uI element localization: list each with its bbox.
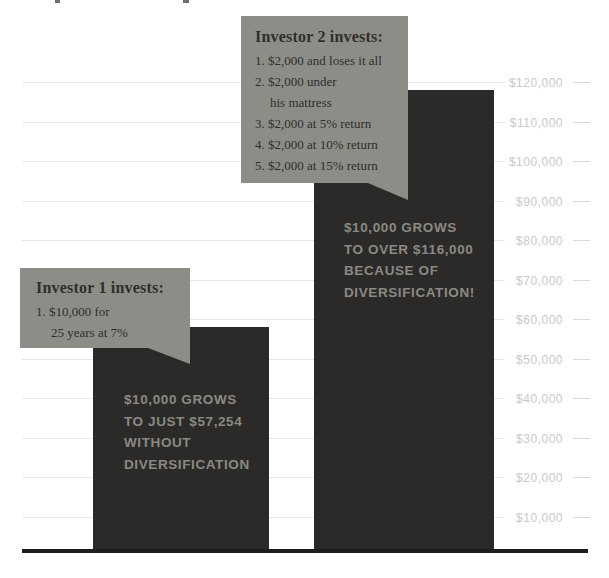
list-item: 2. $2,000 under his mattress xyxy=(255,71,406,113)
y-tick-label: $60,000 xyxy=(516,313,563,327)
list-item: 3. $2,000 at 5% return xyxy=(255,113,406,134)
y-tick-label: $10,000 xyxy=(516,511,563,525)
tick-dash xyxy=(573,240,590,241)
x-axis-line xyxy=(22,549,588,553)
callout-investor1-list: 1. $10,000 for 25 years at 7% xyxy=(36,301,186,343)
tick-dash xyxy=(573,398,590,399)
tick-dash xyxy=(573,122,590,123)
cropped-text-artifact xyxy=(55,0,60,3)
tick-dash xyxy=(573,280,590,281)
y-tick-label: $70,000 xyxy=(516,274,563,288)
list-item: 1. $2,000 and loses it all xyxy=(255,50,406,71)
tick-dash xyxy=(573,359,590,360)
list-item: 1. $10,000 for 25 years at 7% xyxy=(36,301,186,343)
callout-investor2-title: Investor 2 invests: xyxy=(255,28,406,46)
callout-investor2: Investor 2 invests: 1. $2,000 and loses … xyxy=(241,16,408,200)
y-tick-label: $90,000 xyxy=(516,195,563,209)
callout-investor1-title: Investor 1 invests: xyxy=(36,279,186,297)
tick-dash xyxy=(573,201,590,202)
tick-dash xyxy=(573,438,590,439)
diversification-bar-chart: $120,000$110,000$100,000$90,000$80,000$7… xyxy=(0,0,609,578)
y-tick-label: $80,000 xyxy=(516,234,563,248)
list-item: 5. $2,000 at 15% return xyxy=(255,155,406,176)
tick-dash xyxy=(573,82,590,83)
y-tick-label: $100,000 xyxy=(509,155,563,169)
y-tick-label: $110,000 xyxy=(510,116,563,130)
cropped-text-artifact xyxy=(183,0,189,3)
callout-investor2-list: 1. $2,000 and loses it all 2. $2,000 und… xyxy=(255,50,406,176)
y-tick-label: $120,000 xyxy=(509,76,563,90)
tick-dash xyxy=(573,319,590,320)
tick-dash xyxy=(573,517,590,518)
y-tick-label: $30,000 xyxy=(516,432,563,446)
tick-dash xyxy=(573,161,590,162)
list-item: 4. $2,000 at 10% return xyxy=(255,134,406,155)
y-tick-label: $50,000 xyxy=(516,353,563,367)
y-tick-label: $40,000 xyxy=(516,392,563,406)
tick-dash xyxy=(573,477,590,478)
y-tick-label: $20,000 xyxy=(516,471,563,485)
